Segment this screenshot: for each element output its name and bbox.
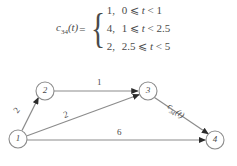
edge-1-to-2 <box>22 98 39 131</box>
directed-graph <box>0 0 237 166</box>
node-3[interactable] <box>139 82 157 100</box>
diagram-canvas: c34(t) = { 1, 0 ⩽ t < 1 4, 1 ⩽ t < 2.5 2… <box>0 0 237 166</box>
node-4[interactable] <box>206 131 224 149</box>
node-1[interactable] <box>9 130 27 148</box>
edge-1-to-3 <box>27 95 140 137</box>
edge-3-to-4 <box>155 98 209 135</box>
node-2[interactable] <box>36 82 54 100</box>
